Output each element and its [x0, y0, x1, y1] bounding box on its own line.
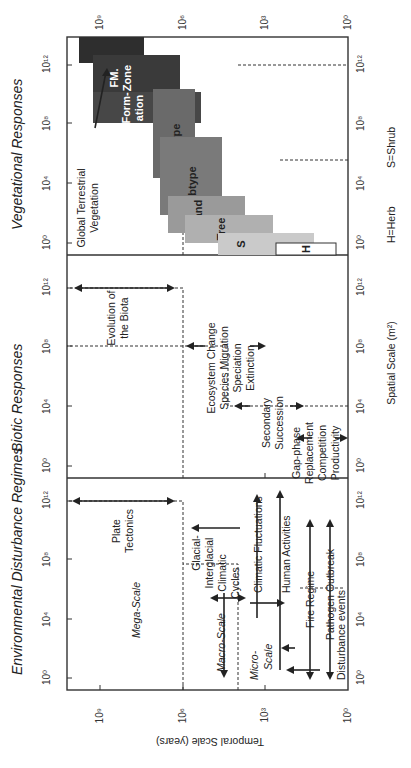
svg-text:Zone: Zone [121, 65, 133, 91]
svg-text:10⁶: 10⁶ [177, 15, 188, 30]
svg-text:Interglacial: Interglacial [203, 538, 215, 589]
bottom-spatial-ticks: 10⁰ 10⁴ 10⁸ 10¹² 10⁰ 10⁴ 10⁸ 10¹² 10⁰ 10… [355, 55, 366, 685]
svg-text:10¹²: 10¹² [355, 491, 366, 509]
panel-title-vegetational: Vegetational Responses [9, 79, 25, 230]
svg-text:the Biota: the Biota [118, 297, 130, 339]
svg-text:10¹²: 10¹² [41, 55, 52, 73]
disturbance-events-label: Disturbance events [335, 590, 347, 680]
svg-text:Gap-phase: Gap-phase [290, 427, 302, 479]
panel-disturbance: Mega-Scale Macro-Scale Micro- Scale Plat… [67, 490, 347, 690]
mega-scale-label: Mega-Scale [130, 582, 142, 638]
panel-title-biotic: Biotic Responses [9, 344, 25, 452]
climatic-fluctuations-label: Climatic Fluctuations [252, 496, 264, 593]
temporal-axis-left: 10⁰ 10³ 10⁶ 10⁹ Temporal Scale (years) [94, 707, 353, 748]
svg-text:Evolution of: Evolution of [105, 290, 117, 345]
svg-text:10⁰: 10⁰ [342, 15, 353, 30]
svg-text:10⁰: 10⁰ [41, 670, 52, 685]
panel-biotic: Evolution of the Biota Ecosystem Change … [67, 284, 348, 484]
svg-text:10⁰: 10⁰ [342, 708, 353, 723]
svg-text:Ecosystem Change: Ecosystem Change [205, 322, 217, 413]
svg-text:10⁰: 10⁰ [41, 458, 52, 473]
svg-text:10⁴: 10⁴ [41, 176, 52, 191]
svg-text:10³: 10³ [259, 15, 270, 30]
svg-text:FM.: FM. [108, 69, 120, 88]
svg-text:10⁸: 10⁸ [355, 116, 366, 131]
svg-text:Succession: Succession [273, 396, 285, 450]
svg-text:10⁴: 10⁴ [41, 612, 52, 627]
human-activities-label: Human Activities [280, 515, 292, 593]
svg-text:Competition: Competition [316, 425, 328, 481]
scale-diagram: Environmental Disturbance Regimes Biotic… [0, 0, 411, 768]
svg-text:10¹²: 10¹² [41, 491, 52, 509]
svg-text:10⁰: 10⁰ [355, 458, 366, 473]
svg-text:Replacement: Replacement [303, 422, 315, 484]
svg-text:10⁸: 10⁸ [355, 339, 366, 354]
temporal-axis-label: Temporal Scale (years) [156, 736, 264, 748]
svg-text:Species Migration: Species Migration [218, 326, 230, 410]
spatial-axis-label: Spatial Scale (m²) [385, 321, 397, 404]
svg-text:10⁰: 10⁰ [41, 235, 52, 250]
svg-text:10⁸: 10⁸ [41, 116, 52, 131]
panel-vegetational: FM. Zone Form- ation Type Subtype Stand … [75, 37, 348, 255]
global-vegetation-label-2: Vegetation [88, 183, 100, 233]
svg-text:10⁹: 10⁹ [94, 708, 105, 723]
svg-text:10⁸: 10⁸ [41, 552, 52, 567]
macro-scale-label: Macro-Scale [215, 613, 227, 672]
svg-text:10⁴: 10⁴ [355, 176, 366, 191]
plate-tectonics-label-1: Plate [110, 519, 122, 543]
svg-text:10⁸: 10⁸ [41, 339, 52, 354]
legend-shrub: S=Shrub [385, 127, 397, 168]
svg-text:10¹²: 10¹² [355, 55, 366, 73]
plate-tectonics-label-2: Tectonics [123, 509, 135, 553]
svg-text:H: H [300, 245, 312, 253]
micro-scale-label-1: Micro- [248, 650, 260, 680]
micro-scale-label-2: Scale [262, 644, 274, 670]
svg-text:Speciation: Speciation [231, 343, 243, 392]
svg-text:10⁰: 10⁰ [355, 235, 366, 250]
svg-text:Glacial-: Glacial- [190, 535, 202, 571]
svg-text:10³: 10³ [259, 707, 270, 722]
svg-text:10⁴: 10⁴ [355, 399, 366, 414]
svg-text:10⁴: 10⁴ [355, 612, 366, 627]
svg-text:Climatic: Climatic [216, 554, 228, 591]
fire-regime-label: Fire Regime [304, 571, 316, 628]
svg-text:Extinction: Extinction [244, 345, 256, 391]
svg-text:10⁹: 10⁹ [94, 15, 105, 30]
svg-text:10¹²: 10¹² [41, 278, 52, 296]
svg-text:10⁸: 10⁸ [355, 552, 366, 567]
global-vegetation-label-1: Global Terrestrial [75, 168, 87, 247]
svg-text:Form-: Form- [120, 92, 132, 124]
svg-text:10¹²: 10¹² [355, 278, 366, 296]
top-spatial-ticks: 10⁰ 10⁴ 10⁸ 10¹² 10⁰ 10⁴ 10⁸ 10¹² 10⁰ 10… [41, 55, 52, 685]
temporal-axis-right: 10⁰ 10³ 10⁶ 10⁹ [94, 15, 353, 30]
svg-text:10⁶: 10⁶ [177, 708, 188, 723]
panel-title-disturbance: Environmental Disturbance Regimes [9, 448, 25, 675]
svg-text:Secondary: Secondary [260, 397, 272, 448]
svg-text:Productivity: Productivity [329, 425, 341, 480]
legend-herb: H=Herb [385, 206, 397, 243]
svg-text:S: S [235, 240, 247, 247]
svg-text:10⁰: 10⁰ [355, 670, 366, 685]
svg-text:10⁴: 10⁴ [41, 399, 52, 414]
svg-text:ation: ation [133, 95, 145, 122]
rotated-diagram: Environmental Disturbance Regimes Biotic… [0, 0, 411, 768]
svg-text:Cycles: Cycles [229, 567, 241, 599]
